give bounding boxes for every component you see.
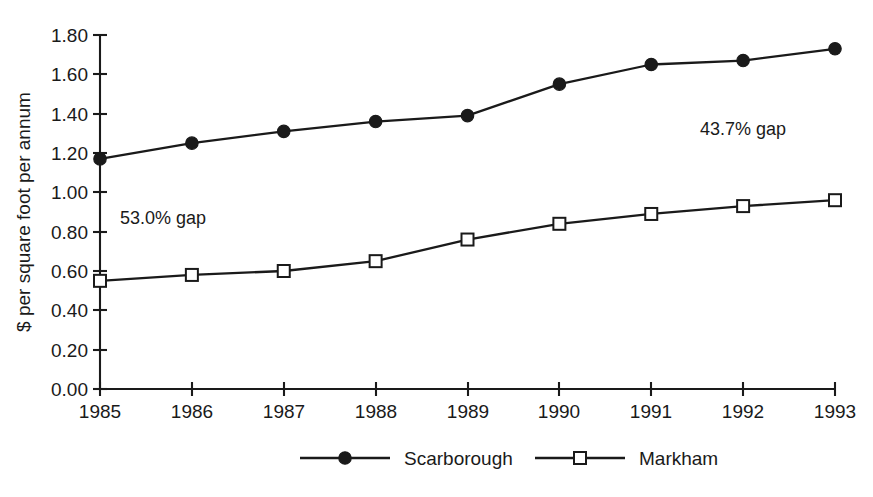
x-tick-label: 1990 — [538, 401, 580, 422]
data-point-marker-filled-circle — [737, 54, 749, 66]
chart-legend: Scarborough Markham — [300, 448, 718, 469]
data-point-marker-filled-circle — [369, 115, 381, 127]
series-line-scarborough — [100, 49, 835, 159]
x-tick-label: 1991 — [630, 401, 672, 422]
x-tick-label: 1988 — [355, 401, 397, 422]
x-tick-label: 1993 — [814, 401, 856, 422]
data-point-marker-open-square — [462, 234, 474, 246]
open-square-marker — [574, 452, 586, 464]
y-tick-label: 1.80 — [51, 25, 88, 46]
filled-circle-marker — [339, 452, 351, 464]
x-tick-label: 1986 — [171, 401, 213, 422]
data-point-marker-filled-circle — [94, 153, 106, 165]
legend-item-scarborough[interactable]: Scarborough — [300, 448, 513, 469]
y-tick-label: 1.20 — [51, 143, 88, 164]
chart-canvas: $ per square foot per annum 1.80 1.60 1.… — [0, 0, 873, 497]
y-axis-title: $ per square foot per annum — [13, 92, 34, 332]
data-point-marker-filled-circle — [461, 109, 473, 121]
data-point-marker-open-square — [94, 275, 106, 287]
y-tick-label: 1.00 — [51, 182, 88, 203]
data-point-marker-open-square — [737, 200, 749, 212]
data-point-marker-filled-circle — [553, 78, 565, 90]
data-point-marker-open-square — [553, 218, 565, 230]
data-point-marker-open-square — [186, 269, 198, 281]
data-point-marker-open-square — [645, 208, 657, 220]
data-point-marker-open-square — [278, 265, 290, 277]
y-tick-label: 0.60 — [51, 261, 88, 282]
y-tick-label: 0.20 — [51, 340, 88, 361]
legend-item-markham[interactable]: Markham — [535, 448, 718, 469]
x-tick-label: 1985 — [79, 401, 121, 422]
data-point-marker-filled-circle — [829, 43, 841, 55]
y-tick-label: 0.40 — [51, 300, 88, 321]
y-tick-label: 0.80 — [51, 222, 88, 243]
y-tick-label: 0.00 — [51, 379, 88, 400]
data-point-marker-open-square — [370, 255, 382, 267]
annotation-left-gap: 53.0% gap — [120, 208, 206, 228]
y-tick-label: 1.40 — [51, 104, 88, 125]
annotation-right-gap: 43.7% gap — [700, 119, 786, 139]
legend-label-scarborough: Scarborough — [404, 448, 513, 469]
data-point-marker-filled-circle — [278, 125, 290, 137]
y-tick-label: 1.60 — [51, 64, 88, 85]
x-tick-label: 1989 — [447, 401, 489, 422]
data-point-marker-filled-circle — [186, 137, 198, 149]
data-point-marker-filled-circle — [645, 58, 657, 70]
line-chart-figure: $ per square foot per annum 1.80 1.60 1.… — [0, 0, 873, 497]
x-tick-label: 1987 — [263, 401, 305, 422]
data-point-marker-open-square — [829, 194, 841, 206]
legend-label-markham: Markham — [639, 448, 718, 469]
x-tick-label: 1992 — [722, 401, 764, 422]
